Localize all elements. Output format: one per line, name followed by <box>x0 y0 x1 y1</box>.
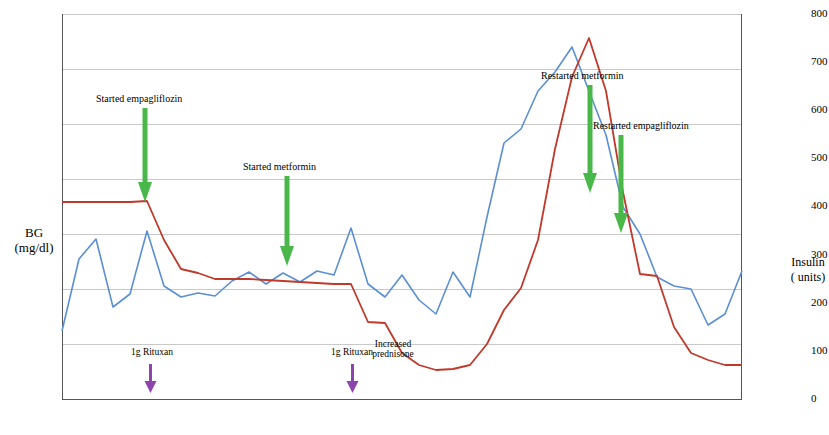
ytick-right-700: 700 <box>811 55 829 67</box>
event-label-increased-prednisone-line1: Increased <box>358 339 428 349</box>
annotation-restarted-empagliflozin: Restarted empagliflozin <box>593 120 689 131</box>
ytick-right-500: 500 <box>811 151 829 163</box>
annotation-restarted-metformin: Restarted metformin <box>541 70 623 81</box>
plot-area: 700 600 500 400 300 200 100 0 800 700 60… <box>62 14 742 399</box>
event-label-increased-prednisone: Increased prednisone IVIG & AKI IV Cytox… <box>358 339 428 359</box>
purple-arrow-rituxan-1 <box>144 364 157 394</box>
ytick-right-300: 300 <box>811 248 829 260</box>
green-arrow-restarted-empagliflozin <box>613 135 629 235</box>
y-axis-label-left-line1: BG <box>8 225 60 240</box>
ytick-right-200: 200 <box>811 296 829 308</box>
ytick-right-800: 800 <box>811 7 829 19</box>
series-insulin-line <box>62 38 742 370</box>
ytick-right-400: 400 <box>811 199 829 211</box>
y-axis-label-left-line2: (mg/dl) <box>8 240 60 255</box>
green-arrow-restarted-metformin <box>582 85 598 195</box>
x-axis-line <box>62 399 742 400</box>
green-arrow-started-empagliflozin <box>137 108 153 204</box>
purple-arrow-rituxan-2 <box>346 364 359 394</box>
green-arrow-started-metformin <box>279 176 295 268</box>
chart-root: BG (mg/dl) Insulin ( units) 700 600 500 … <box>0 0 829 435</box>
series-bg-line <box>62 47 742 331</box>
annotation-started-empagliflozin: Started empagliflozin <box>96 93 182 104</box>
ytick-right-600: 600 <box>811 103 829 115</box>
ytick-right-0: 0 <box>811 392 829 404</box>
annotation-started-metformin: Started metformin <box>243 161 316 172</box>
event-label-increased-prednisone-line2: prednisone <box>358 349 428 359</box>
y-axis-label-left: BG (mg/dl) <box>8 225 60 255</box>
y-axis-label-right-line2: ( units) <box>786 270 829 285</box>
ytick-right-100: 100 <box>811 344 829 356</box>
event-label-rituxan-1: 1g Rituxan <box>117 347 187 357</box>
